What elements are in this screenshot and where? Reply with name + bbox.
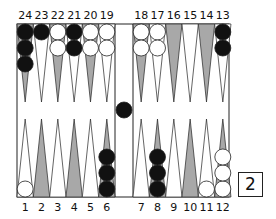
white-checker[interactable]	[50, 40, 66, 56]
point-label-22: 22	[51, 9, 65, 22]
point-label-12: 12	[216, 201, 230, 214]
black-checker[interactable]	[149, 149, 165, 165]
white-checker[interactable]	[50, 24, 66, 40]
white-checker[interactable]	[215, 165, 231, 181]
point-label-11: 11	[199, 201, 213, 214]
black-checker[interactable]	[99, 165, 115, 181]
backgammon-board: 241232223214205196187178169151014111312	[0, 0, 276, 219]
black-checker[interactable]	[66, 40, 82, 56]
point-label-4: 4	[71, 201, 78, 214]
black-checker[interactable]	[215, 24, 231, 40]
point-label-23: 23	[34, 9, 48, 22]
white-checker[interactable]	[99, 24, 115, 40]
point-label-20: 20	[83, 9, 97, 22]
point-label-9: 9	[170, 201, 177, 214]
point-label-8: 8	[154, 201, 161, 214]
point-label-21: 21	[67, 9, 81, 22]
black-checker[interactable]	[99, 181, 115, 197]
black-checker[interactable]	[17, 56, 33, 72]
black-checker[interactable]	[215, 40, 231, 56]
point-label-14: 14	[199, 9, 213, 22]
black-checker[interactable]	[99, 149, 115, 165]
point-label-13: 13	[216, 9, 230, 22]
point-label-1: 1	[22, 201, 29, 214]
white-checker[interactable]	[82, 40, 98, 56]
point-label-7: 7	[138, 201, 145, 214]
white-checker[interactable]	[82, 24, 98, 40]
white-checker[interactable]	[99, 40, 115, 56]
point-label-24: 24	[18, 9, 32, 22]
black-checker[interactable]	[17, 24, 33, 40]
point-label-16: 16	[167, 9, 181, 22]
white-checker[interactable]	[17, 181, 33, 197]
doubling-cube[interactable]: 2	[238, 172, 263, 197]
point-label-10: 10	[183, 201, 197, 214]
white-checker[interactable]	[215, 181, 231, 197]
point-label-18: 18	[134, 9, 148, 22]
white-checker[interactable]	[149, 40, 165, 56]
white-checker[interactable]	[133, 24, 149, 40]
black-checker[interactable]	[17, 40, 33, 56]
black-checker[interactable]	[149, 181, 165, 197]
point-label-17: 17	[150, 9, 164, 22]
white-checker[interactable]	[149, 24, 165, 40]
point-label-3: 3	[54, 201, 61, 214]
point-label-19: 19	[100, 9, 114, 22]
white-checker[interactable]	[198, 181, 214, 197]
point-label-6: 6	[103, 201, 110, 214]
point-label-15: 15	[183, 9, 197, 22]
black-checker[interactable]	[33, 24, 49, 40]
bar-checker[interactable]	[116, 102, 132, 118]
black-checker[interactable]	[66, 24, 82, 40]
white-checker[interactable]	[133, 40, 149, 56]
point-label-2: 2	[38, 201, 45, 214]
point-label-5: 5	[87, 201, 94, 214]
white-checker[interactable]	[215, 149, 231, 165]
black-checker[interactable]	[149, 165, 165, 181]
